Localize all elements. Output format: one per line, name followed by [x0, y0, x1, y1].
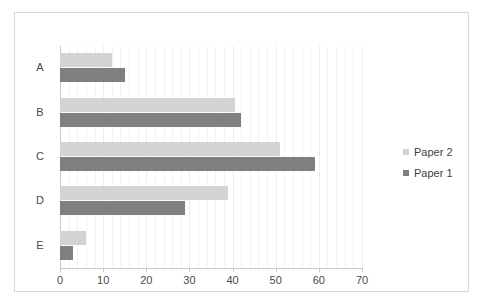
x-axis-tick — [276, 268, 277, 272]
gridline — [353, 46, 354, 268]
gridline — [327, 46, 328, 268]
x-axis-tick-label: 30 — [169, 274, 209, 286]
x-axis-tick-label: 70 — [342, 274, 382, 286]
chart-legend: Paper 2Paper 1 — [403, 146, 473, 188]
x-axis-tick — [189, 268, 190, 272]
x-axis-tick — [60, 268, 61, 272]
gridline — [319, 46, 320, 268]
x-axis-tick — [146, 268, 147, 272]
legend-label: Paper 1 — [414, 167, 453, 179]
y-axis-category-label: A — [29, 61, 51, 73]
x-axis-tick — [103, 268, 104, 272]
bar — [60, 68, 125, 82]
x-axis-tick-label: 10 — [83, 274, 123, 286]
bar — [60, 246, 73, 260]
bar — [60, 113, 241, 127]
x-axis-tick-label: 40 — [213, 274, 253, 286]
gridline — [362, 46, 363, 268]
y-axis-category-label: D — [29, 194, 51, 206]
x-axis-tick-label: 0 — [40, 274, 80, 286]
y-axis-category-label: B — [29, 106, 51, 118]
legend-item: Paper 2 — [403, 146, 473, 158]
gridline — [336, 46, 337, 268]
x-axis-tick-label: 60 — [299, 274, 339, 286]
legend-label: Paper 2 — [414, 146, 453, 158]
x-axis-tick — [319, 268, 320, 272]
bar — [60, 157, 315, 171]
x-axis-tick — [233, 268, 234, 272]
bar — [60, 201, 185, 215]
bar — [60, 98, 235, 112]
bar — [60, 231, 86, 245]
bar — [60, 53, 112, 67]
legend-swatch-icon — [403, 149, 409, 155]
bar — [60, 142, 280, 156]
x-axis-tick — [362, 268, 363, 272]
y-axis-category-label: E — [29, 239, 51, 251]
y-axis-category-label: C — [29, 150, 51, 162]
legend-item: Paper 1 — [403, 167, 473, 179]
legend-swatch-icon — [403, 170, 409, 176]
chart-frame: 010203040506070 ABCDE Paper 2Paper 1 — [14, 12, 469, 292]
bar — [60, 186, 228, 200]
x-axis-tick-label: 50 — [256, 274, 296, 286]
gridline — [345, 46, 346, 268]
x-axis-tick-label: 20 — [126, 274, 166, 286]
x-axis-line — [60, 268, 363, 269]
